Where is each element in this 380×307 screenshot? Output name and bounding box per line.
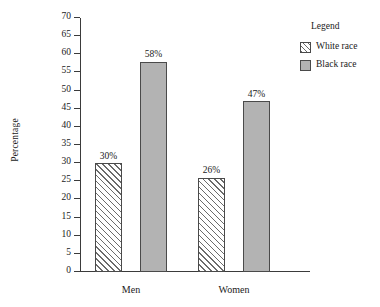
bar-value-label: 58% — [145, 50, 162, 60]
bar: 58% — [140, 62, 167, 272]
y-axis-tick-label: 15 — [62, 212, 72, 222]
y-axis-tick-label: 10 — [62, 230, 72, 240]
legend: Legend White race Black race — [300, 22, 376, 78]
y-axis-title-text: Percentage — [10, 118, 20, 162]
hatch-swatch-icon — [300, 42, 311, 53]
legend-item-white-race: White race — [300, 42, 376, 53]
y-axis-tick: 25 — [74, 180, 80, 181]
y-axis-tick-label: 25 — [62, 176, 72, 186]
bar: 47% — [243, 101, 270, 272]
legend-item-label: White race — [316, 42, 357, 52]
y-axis-tick-label: 40 — [62, 121, 72, 131]
y-axis-tick: 55 — [74, 71, 80, 72]
y-axis-tick: 20 — [74, 198, 80, 199]
y-axis-tick: 15 — [74, 217, 80, 218]
y-axis-tick: 5 — [74, 253, 80, 254]
bar: 30% — [95, 163, 122, 272]
y-axis-tick-label: 35 — [62, 139, 72, 149]
legend-item-black-race: Black race — [300, 60, 376, 71]
y-axis-tick: 70 — [74, 17, 80, 18]
y-axis-tick-label: 70 — [62, 12, 72, 22]
y-axis-line — [80, 18, 81, 272]
y-axis-tick-label: 55 — [62, 67, 72, 77]
y-axis-title: Percentage — [6, 0, 24, 280]
y-axis-tick: 60 — [74, 53, 80, 54]
y-axis-tick: 10 — [74, 235, 80, 236]
legend-title: Legend — [311, 22, 376, 32]
bar-value-label: 30% — [100, 152, 117, 162]
y-axis-tick-label: 45 — [62, 103, 72, 113]
x-axis-category-label: Women — [219, 285, 250, 295]
y-axis-tick-label: 20 — [62, 194, 72, 204]
y-axis-tick: 40 — [74, 126, 80, 127]
x-axis-category-label: Men — [122, 285, 140, 295]
bar-chart: Percentage 0510152025303540455055606570 … — [0, 0, 380, 307]
bar-value-label: 26% — [203, 166, 220, 176]
y-axis-tick-label: 50 — [62, 85, 72, 95]
bar-value-label: 47% — [248, 90, 265, 100]
y-axis-tick-label: 60 — [62, 49, 72, 59]
bar: 26% — [198, 178, 225, 272]
y-axis-tick: 30 — [74, 162, 80, 163]
y-axis-tick: 45 — [74, 108, 80, 109]
legend-item-label: Black race — [316, 60, 356, 70]
plot-area: 0510152025303540455055606570 30%58%26%47… — [80, 18, 310, 272]
y-axis-tick-label: 65 — [62, 30, 72, 40]
y-axis-tick: 35 — [74, 144, 80, 145]
y-axis-tick: 50 — [74, 90, 80, 91]
y-axis-tick: 0 — [74, 271, 80, 272]
y-axis-tick-label: 0 — [66, 266, 71, 276]
solid-gray-swatch-icon — [300, 60, 311, 71]
y-axis-tick-label: 30 — [62, 157, 72, 167]
y-axis-tick-label: 5 — [66, 248, 71, 258]
y-axis-tick: 65 — [74, 35, 80, 36]
